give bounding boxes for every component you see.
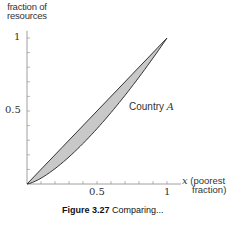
x-tick-label-0.5: 0.5: [89, 186, 105, 197]
x-tick-label-1: 1: [164, 186, 170, 197]
x-axis-label: x (poorest fraction): [182, 176, 226, 194]
series-label-country-a: Country A: [129, 101, 174, 112]
caption-figure-number: Figure 3.27: [62, 205, 110, 215]
x-axis-label-line2: fraction): [182, 185, 226, 194]
y-tick-label-1: 1: [14, 31, 20, 42]
caption-text: Comparing...: [112, 205, 164, 215]
y-tick-label-0.5: 0.5: [5, 104, 21, 115]
figure-caption: Figure 3.27 Comparing...: [62, 205, 164, 215]
series-label-text: Country: [129, 101, 164, 112]
series-label-variable: A: [167, 101, 174, 112]
x-axis-variable: x: [182, 175, 188, 186]
